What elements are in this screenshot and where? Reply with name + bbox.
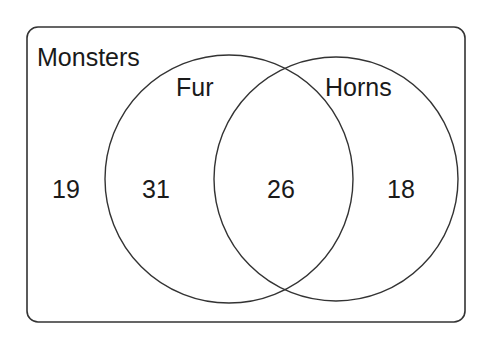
horns-label: Horns <box>325 73 392 101</box>
universe-label: Monsters <box>37 43 140 71</box>
intersection-count: 26 <box>267 175 295 203</box>
outside-count: 19 <box>52 175 80 203</box>
fur-only-count: 31 <box>142 175 170 203</box>
venn-diagram: Monsters Fur Horns 19 31 26 18 <box>0 0 488 337</box>
fur-label: Fur <box>176 73 214 101</box>
horns-only-count: 18 <box>387 175 415 203</box>
